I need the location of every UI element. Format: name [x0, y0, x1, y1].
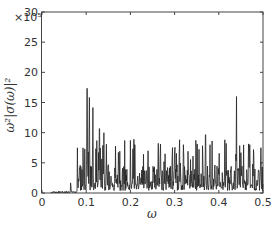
spectrum-chart: 00.10.20.30.40.5051015202530 ×10⁵ ω ω²|σ… — [0, 0, 273, 228]
svg-text:15: 15 — [24, 97, 38, 110]
svg-text:5: 5 — [31, 157, 38, 170]
svg-text:20: 20 — [24, 66, 38, 79]
svg-text:0.1: 0.1 — [77, 196, 95, 209]
plot-frame — [42, 12, 264, 193]
svg-text:0.5: 0.5 — [254, 196, 272, 209]
svg-text:0.3: 0.3 — [166, 196, 184, 209]
svg-text:0: 0 — [31, 187, 38, 200]
svg-text:25: 25 — [24, 36, 38, 49]
y-axis-label: ω²|σ(ω)|² — [3, 77, 17, 132]
svg-text:10: 10 — [24, 127, 38, 140]
spectrum-line — [51, 88, 263, 192]
x-axis-label: ω — [147, 207, 157, 221]
svg-text:0.4: 0.4 — [210, 196, 228, 209]
axis-ticks — [42, 12, 263, 193]
y-multiplier: ×10⁵ — [14, 11, 42, 24]
svg-text:0.2: 0.2 — [122, 196, 140, 209]
svg-text:0: 0 — [39, 196, 46, 209]
